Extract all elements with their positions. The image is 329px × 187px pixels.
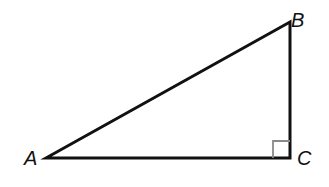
vertex-label-b: B bbox=[291, 10, 304, 30]
vertex-label-a: A bbox=[24, 148, 37, 168]
triangle-diagram bbox=[0, 0, 329, 187]
triangle-abc bbox=[46, 22, 290, 158]
vertex-label-c: C bbox=[297, 148, 311, 168]
right-angle-marker bbox=[273, 141, 290, 158]
